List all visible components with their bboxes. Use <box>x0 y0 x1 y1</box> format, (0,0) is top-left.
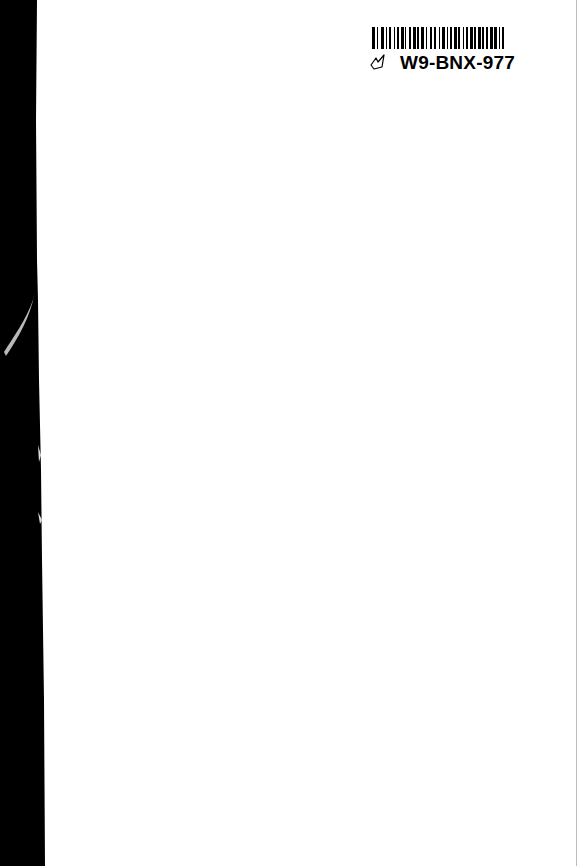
scan-binding-edge <box>0 0 46 866</box>
barcode-id-row: W9-BNX-977 <box>368 51 548 73</box>
hand-drawn-check-mark-icon <box>368 53 388 71</box>
page-right-edge-line <box>576 0 577 866</box>
barcode <box>372 27 528 49</box>
barcode-id-text: W9-BNX-977 <box>400 53 515 72</box>
barcode-label: W9-BNX-977 <box>368 27 538 63</box>
barcode-gap <box>504 27 507 49</box>
